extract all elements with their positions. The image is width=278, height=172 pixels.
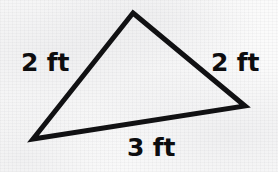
side-label-left: 2 ft [21, 50, 69, 75]
side-label-base: 3 ft [127, 135, 175, 160]
figure-canvas: 2 ft 2 ft 3 ft [0, 0, 278, 172]
side-label-right: 2 ft [211, 50, 259, 75]
